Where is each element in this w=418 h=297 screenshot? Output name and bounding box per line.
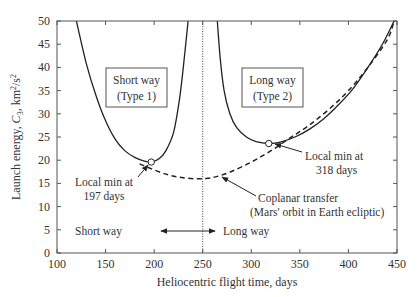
short-way-box-line2: (Type 1): [117, 90, 156, 103]
long-way-box-line1: Long way: [249, 74, 296, 87]
launch-energy-chart: 05101520253035404550 1001502002503003504…: [0, 0, 418, 297]
y-tick-label: 20: [38, 153, 50, 167]
y-tick-label: 5: [44, 223, 50, 237]
y-axis-label-prefix: Launch energy,: [9, 123, 23, 200]
x-tick-label: 100: [48, 257, 66, 271]
coplanar-line2: (Mars' orbit in Earth ecliptic): [250, 206, 384, 219]
local-min-short-pointer: [138, 165, 148, 177]
local-min-short-line1: Local min at: [75, 176, 134, 188]
y-tick-label: 40: [38, 60, 50, 74]
y-tick-label: 30: [38, 107, 50, 121]
y-axis-label: Launch energy, C3, km2/s2: [9, 74, 25, 200]
y-tick-label: 10: [38, 200, 50, 214]
local-min-marker: [148, 159, 154, 165]
local-min-long-line2: 318 days: [316, 164, 358, 177]
x-tick-label: 150: [97, 257, 115, 271]
x-tick-label: 200: [145, 257, 163, 271]
y-tick-label: 45: [38, 37, 50, 51]
local-min-long-pointer: [275, 144, 302, 152]
y-tick-label: 15: [38, 176, 50, 190]
annotations: Short way(Type 1)Long way(Type 2)Local m…: [75, 68, 385, 238]
x-tick-label: 300: [242, 257, 260, 271]
x-axis-label: Heliocentric flight time, days: [157, 275, 298, 289]
y-tick-label: 50: [38, 14, 50, 28]
y-axis-ticks: 05101520253035404550: [38, 14, 397, 260]
local-min-short-line2: 197 days: [83, 190, 125, 203]
y-axis-units: , km: [9, 89, 23, 111]
plot-frame: [57, 21, 397, 253]
short-way-box-line1: Short way: [113, 74, 160, 87]
y-axis-sup2b: 2: [9, 74, 18, 78]
long-way-box-line2: (Type 2): [253, 90, 292, 103]
x-tick-label: 350: [291, 257, 309, 271]
short-way-label: Short way: [75, 225, 122, 238]
x-tick-label: 250: [194, 257, 212, 271]
long-way-label: Long way: [223, 225, 270, 238]
local-min-long-line1: Local min at: [305, 150, 364, 162]
y-tick-label: 35: [38, 84, 50, 98]
x-tick-label: 450: [388, 257, 406, 271]
x-tick-label: 400: [339, 257, 357, 271]
coplanar-pointer: [222, 177, 256, 196]
coplanar-line1: Coplanar transfer: [258, 192, 338, 205]
local-min-marker: [266, 140, 272, 146]
y-tick-label: 25: [38, 130, 50, 144]
plot-series: [76, 21, 394, 253]
